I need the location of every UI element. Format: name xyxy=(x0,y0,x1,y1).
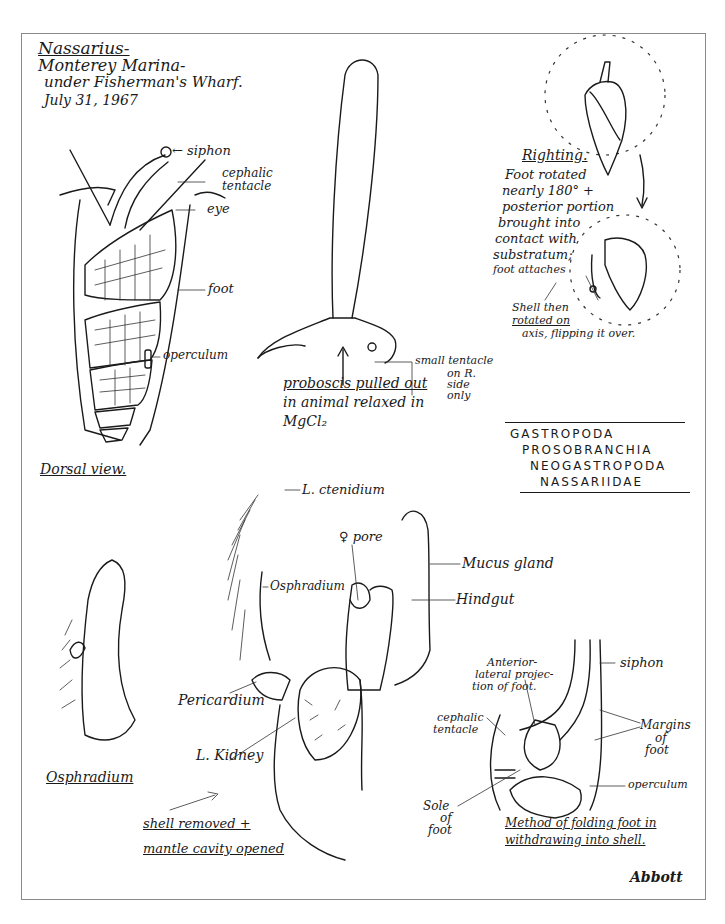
label-osphradium: Osphradium xyxy=(270,580,345,593)
proboscis-caption-2: in animal relaxed in xyxy=(283,395,424,410)
label-small-tentacle-4: only xyxy=(447,390,470,402)
taxon-class: GASTROPODA xyxy=(510,428,614,441)
label-kidney: L. Kidney xyxy=(196,748,263,763)
label-mucus-gland: Mucus gland xyxy=(462,556,554,571)
label-anterior-1: Anterior- xyxy=(487,657,537,669)
proboscis-drawing xyxy=(258,60,396,385)
mantle-caption-1: shell removed + xyxy=(143,817,251,831)
label-foot-cephalic-2: tentacle xyxy=(433,724,478,736)
label-cephalic-2: tentacle xyxy=(222,180,271,193)
dorsal-view-shell-drawing xyxy=(60,147,225,445)
date: July 31, 1967 xyxy=(44,93,138,108)
label-siphon: ← siphon xyxy=(172,144,231,158)
label-anterior-2: lateral projec- xyxy=(475,669,554,681)
leader-lines xyxy=(152,182,640,810)
label-margins-3: foot xyxy=(645,744,669,757)
proboscis-caption-1: proboscis pulled out xyxy=(283,376,427,391)
taxon-subclass: PROSOBRANCHIA xyxy=(522,444,653,457)
label-foot: foot xyxy=(208,282,234,296)
label-eye: eye xyxy=(207,202,230,216)
label-foot-cephalic-1: cephalic xyxy=(437,712,484,724)
label-pericardium: Pericardium xyxy=(178,693,265,708)
label-cephalic-1: cephalic xyxy=(222,167,273,180)
taxonomy-rule-bottom xyxy=(520,492,690,493)
label-foot-operculum: operculum xyxy=(628,779,688,791)
label-anterior-3: tion of foot. xyxy=(472,681,537,693)
mantle-caption-2: mantle cavity opened xyxy=(143,842,284,856)
proboscis-caption-3: MgCl₂ xyxy=(283,414,327,429)
label-margins-1: Margins xyxy=(640,719,691,732)
label-operculum: operculum xyxy=(163,349,228,362)
folding-caption-2: withdrawing into shell. xyxy=(505,834,645,847)
location-line-2: under Fisherman's Wharf. xyxy=(44,75,243,91)
label-foot-siphon: siphon xyxy=(620,656,664,670)
mantle-cavity-drawing xyxy=(228,495,430,860)
label-hindgut: Hindgut xyxy=(456,592,514,607)
taxon-family: NASSARIIDAE xyxy=(540,476,643,489)
folding-caption-1: Method of folding foot in xyxy=(505,817,656,830)
label-female-pore: ♀ pore xyxy=(339,530,383,544)
signature: Abbott xyxy=(630,870,683,885)
osphradium-detail-drawing xyxy=(60,560,135,740)
label-sole-3: foot xyxy=(428,824,452,837)
dorsal-view-caption: Dorsal view. xyxy=(40,462,126,477)
label-ctenidium: L. ctenidium xyxy=(302,483,385,497)
osphradium-caption: Osphradium xyxy=(46,770,133,785)
taxon-order: NEOGASTROPODA xyxy=(530,460,666,473)
taxonomy-rule-top xyxy=(505,422,685,423)
righting-title: Righting. xyxy=(522,148,588,163)
label-small-tentacle: small tentacle xyxy=(415,355,493,367)
